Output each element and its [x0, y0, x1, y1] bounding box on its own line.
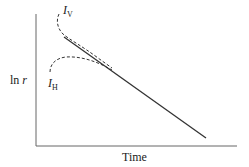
y-label-prefix: ln — [10, 73, 22, 87]
x-axis-label: Time — [122, 151, 147, 163]
ih-label: IH — [48, 77, 58, 92]
diagram-canvas — [0, 0, 249, 167]
ih-label-sub: H — [52, 83, 58, 92]
iv-dashed-curve — [57, 14, 112, 68]
iv-label: IV — [63, 4, 73, 19]
y-axis-label: ln r — [10, 74, 27, 86]
solid-decay-line — [64, 37, 206, 138]
y-label-var: r — [22, 73, 27, 87]
iv-label-sub: V — [67, 10, 73, 19]
x-label-text: Time — [122, 150, 147, 164]
